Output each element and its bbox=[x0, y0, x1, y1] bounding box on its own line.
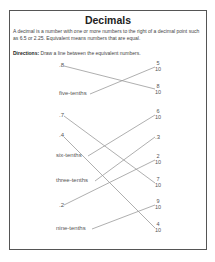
line-fivetenths-to-5tenths bbox=[90, 67, 155, 94]
left-item: .7 bbox=[59, 112, 64, 118]
right-fraction: 710 bbox=[154, 177, 162, 188]
right-fraction: 610 bbox=[154, 109, 162, 120]
line-ninetenths-to-9tenths bbox=[92, 205, 155, 229]
left-item: three-tenths bbox=[56, 177, 88, 183]
left-item: .8 bbox=[59, 62, 64, 68]
left-item: nine-tenths bbox=[56, 225, 86, 231]
right-decimal: .3 bbox=[155, 134, 160, 140]
matching-lines bbox=[0, 0, 215, 262]
right-fraction: 410 bbox=[154, 222, 162, 233]
line-point7-to-7tenths bbox=[64, 116, 155, 183]
left-item: .4 bbox=[59, 132, 64, 138]
line-sixtenths-to-6tenths bbox=[88, 115, 155, 156]
left-item: .2 bbox=[59, 202, 64, 208]
left-item: six-tenths bbox=[56, 152, 82, 158]
right-fraction: 910 bbox=[154, 199, 162, 210]
right-fraction: 510 bbox=[154, 61, 162, 72]
right-fraction: 810 bbox=[154, 84, 162, 95]
right-fraction: 210 bbox=[154, 154, 162, 165]
left-item: five-tenths bbox=[59, 90, 87, 96]
